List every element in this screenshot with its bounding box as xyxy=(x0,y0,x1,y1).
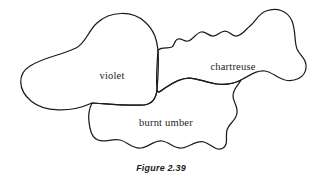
figure-container: violet chartreuse burnt umber Figure 2.3… xyxy=(0,0,322,179)
violet-region-outline xyxy=(21,13,159,109)
burnt-umber-region-label: burnt umber xyxy=(139,117,193,128)
venn-blob-diagram: violet chartreuse burnt umber xyxy=(0,0,322,179)
burnt-umber-region-outline xyxy=(89,78,241,149)
chartreuse-region-label: chartreuse xyxy=(210,61,255,72)
violet-region-label: violet xyxy=(99,70,124,81)
figure-caption: Figure 2.39 xyxy=(0,163,322,173)
